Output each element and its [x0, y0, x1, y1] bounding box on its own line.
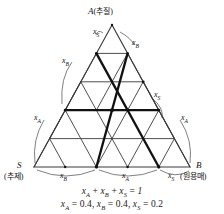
- edge-label-apex-right: xB: [132, 39, 139, 49]
- edge-label-bottom-middle-segment: xA: [122, 172, 129, 182]
- value-xb: 0.4: [116, 199, 128, 209]
- ternary-diagram-figure: A(추질) S (추제) B (원용매) xS xB xB xA xS xA x…: [0, 0, 224, 214]
- edge-label-bottom-right-segment: xS: [168, 172, 174, 182]
- vertex-label-bottom-right-korean: (원용매): [180, 173, 206, 181]
- equation-values: xA = 0.4, xB = 0.4, xS = 0.2: [0, 199, 224, 211]
- grid-nodes: [64, 24, 161, 169]
- vertex-apex-korean: (추질): [94, 7, 113, 16]
- value-xs: 0.2: [151, 199, 163, 209]
- vertex-label-bottom-left-korean: (추제): [4, 173, 23, 181]
- edge-label-left-upper: xB: [62, 57, 69, 67]
- edge-label-right-lower: xA: [181, 114, 188, 124]
- edge-label-apex-left: xS: [93, 28, 99, 38]
- vertex-label-apex: A(추질): [88, 7, 113, 16]
- vertex-label-bottom-left-letter: S: [17, 161, 22, 170]
- edge-label-right-upper: xS: [154, 91, 160, 101]
- edge-label-bottom-left-segment: xB: [60, 172, 67, 182]
- ternary-diagram-canvas: [0, 0, 224, 214]
- equation-sum: xA + xB + xS = 1: [0, 186, 224, 198]
- value-xa: 0.4: [80, 199, 92, 209]
- vertex-label-bottom-right-letter: B: [196, 161, 202, 170]
- grid-lines: [34, 25, 190, 167]
- edge-label-left-lower: xA: [34, 114, 41, 124]
